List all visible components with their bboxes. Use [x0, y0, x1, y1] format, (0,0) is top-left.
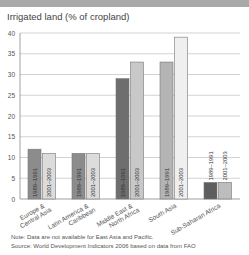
y-tick-label: 10	[8, 154, 16, 161]
bar-chart: 05101520253035401989–19912001–2003Europe…	[0, 0, 249, 255]
category-label: Latin America &Caribbean	[47, 200, 97, 237]
bar-period-label: 1989–1991	[120, 168, 126, 197]
y-tick-label: 15	[8, 133, 16, 140]
bar-period-label: 2001–2003	[222, 151, 228, 180]
category-label: Middle East &North Africa	[95, 200, 141, 234]
category-label: Sub-Saharan Africa	[169, 202, 222, 236]
bar-period-label: 1989–1991	[208, 151, 214, 180]
bar	[219, 182, 232, 199]
y-tick-label: 5	[11, 175, 15, 182]
y-tick-label: 30	[8, 71, 16, 78]
bar-period-label: 1989–1991	[164, 168, 170, 197]
category-label: South Asia	[147, 202, 178, 224]
y-tick-label: 20	[8, 113, 16, 120]
y-tick-label: 25	[8, 92, 16, 99]
bar-period-label: 2001–2003	[178, 168, 184, 197]
bar-period-label: 2001–2003	[90, 168, 96, 197]
bar-period-label: 2001–2003	[134, 168, 140, 197]
bar-period-label: 1989–1991	[32, 168, 38, 197]
bar-period-label: 1989–1991	[76, 168, 82, 197]
chart-source: Source: World Development Indicators 200…	[11, 243, 196, 249]
bar	[204, 182, 217, 199]
bar-period-label: 2001–2003	[46, 168, 52, 197]
y-tick-label: 40	[8, 30, 16, 37]
y-tick-label: 35	[8, 50, 16, 57]
category-label-line: South Asia	[147, 202, 178, 224]
chart-note: Note: Data are not available for East As…	[11, 234, 153, 240]
y-tick-label: 0	[11, 196, 15, 203]
category-label-line: Sub-Saharan Africa	[169, 202, 222, 236]
